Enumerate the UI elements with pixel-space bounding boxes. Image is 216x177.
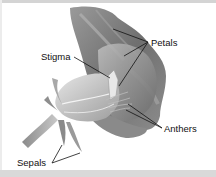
flower-diagram: Petals Stigma Anthers Sepals	[0, 0, 216, 177]
label-anthers: Anthers	[164, 124, 197, 134]
label-stigma: Stigma	[41, 52, 71, 62]
label-sepals: Sepals	[17, 158, 46, 168]
flower-illustration	[0, 0, 216, 177]
sepal-lower-2	[66, 122, 82, 152]
bottom-border	[0, 170, 216, 177]
stem	[22, 114, 58, 148]
label-petals: Petals	[151, 38, 177, 48]
sepal-lower-1	[58, 120, 66, 146]
